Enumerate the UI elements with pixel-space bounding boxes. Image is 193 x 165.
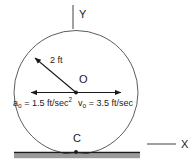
velocity-label: vo = 3.5 ft/sec [78,99,133,108]
radius-label: 2 ft [50,56,63,65]
x-axis-label: X [181,139,188,150]
ground-band [14,154,140,158]
acceleration-label: ao = 1.5 ft/sec2 [13,99,72,108]
velocity-subscript: o [83,102,87,109]
velocity-equals: = [89,98,94,108]
contact-point-label: C [73,133,81,144]
velocity-symbol: v [78,98,83,108]
center-point-marker [74,91,78,95]
acceleration-equals: = [24,98,29,108]
acceleration-value: 1.5 [32,98,45,108]
center-point-label: O [79,74,88,85]
diagram-canvas: Y X O C 2 ft ao = 1.5 ft/sec2 vo = 3.5 f… [0,0,193,165]
physics-diagram [0,0,193,165]
velocity-unit: ft/sec [111,98,133,108]
acceleration-exponent: 2 [68,96,72,103]
acceleration-subscript: o [18,102,22,109]
velocity-value: 3.5 [96,98,109,108]
acceleration-unit: ft/sec [47,98,69,108]
y-axis-label: Y [79,9,86,20]
